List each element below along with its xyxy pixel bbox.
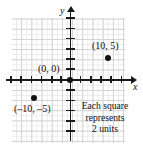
y-axis-tick <box>66 28 75 30</box>
x-axis-tick <box>121 76 123 83</box>
x-axis-label: x <box>133 82 137 92</box>
x-axis-tick <box>41 76 43 83</box>
x-axis-tick <box>60 76 62 83</box>
x-axis-tick <box>80 76 82 83</box>
y-axis-tick <box>66 17 75 19</box>
point-label-origin: (0, 0) <box>38 64 60 74</box>
x-axis-tick <box>10 76 12 83</box>
scale-note: Each square represents 2 units <box>74 100 136 135</box>
data-point-neg10-neg5 <box>31 95 37 101</box>
data-point-10-5 <box>105 55 111 61</box>
x-axis-tick <box>100 76 102 83</box>
x-axis-tick <box>90 76 92 83</box>
y-axis-tick <box>66 38 75 40</box>
scale-note-line-1: Each square <box>74 100 136 112</box>
y-axis-tick <box>66 89 75 91</box>
x-axis-tick <box>51 76 53 83</box>
x-axis-tick <box>31 76 33 83</box>
x-axis-tick <box>110 76 112 83</box>
y-axis-tick <box>66 58 75 60</box>
x-axis-tick <box>20 76 22 83</box>
scale-note-line-3: 2 units <box>74 123 136 135</box>
point-label-neg10-neg5: (–10, –5) <box>14 104 51 114</box>
coordinate-plane-figure: (0, 0) (10, 5) (–10, –5) y x Each square… <box>0 0 143 151</box>
y-axis-arrowhead-icon <box>67 6 75 12</box>
scale-note-line-2: represents <box>74 112 136 124</box>
point-label-10-5: (10, 5) <box>92 41 119 51</box>
y-axis-tick <box>66 68 75 70</box>
y-axis-label: y <box>60 6 64 16</box>
y-axis-tick <box>66 48 75 50</box>
